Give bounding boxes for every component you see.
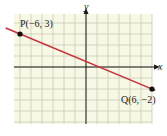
point-p-marker — [17, 31, 22, 36]
point-p-label: P(−6, 3) — [20, 18, 53, 30]
point-q-marker — [149, 86, 154, 91]
grid-background — [14, 14, 152, 124]
grid — [14, 14, 152, 124]
y-axis-label: y — [83, 1, 89, 12]
point-q-label: Q(6, −2) — [121, 94, 156, 106]
x-axis-label: x — [157, 61, 163, 72]
coordinate-plane: y x P(−6, 3) Q(6, −2) — [0, 0, 167, 136]
